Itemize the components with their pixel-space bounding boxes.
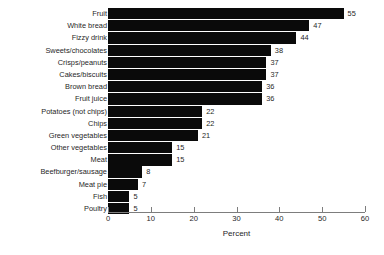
bar-value-label: 15 bbox=[176, 154, 184, 165]
bar-value-label: 21 bbox=[202, 130, 210, 141]
bar-value-label: 5 bbox=[133, 203, 137, 214]
bar-category-label: White bread bbox=[67, 20, 107, 31]
bar-track: 15 bbox=[108, 142, 384, 153]
bar-row: Other vegetables15 bbox=[0, 142, 384, 153]
bar bbox=[108, 8, 344, 19]
bar-track: 21 bbox=[108, 130, 384, 141]
bar-category-label: Sweets/chocolates bbox=[45, 45, 107, 56]
bar-row: Meat pie7 bbox=[0, 179, 384, 190]
x-axis-tick bbox=[237, 207, 238, 212]
bar-value-label: 55 bbox=[348, 8, 356, 19]
x-axis-tick bbox=[194, 207, 195, 212]
x-axis-tick-label: 10 bbox=[147, 214, 155, 223]
bar-track: 36 bbox=[108, 93, 384, 104]
bar-value-label: 8 bbox=[146, 166, 150, 177]
bar-value-label: 37 bbox=[270, 69, 278, 80]
bar-track: 37 bbox=[108, 57, 384, 68]
bar-track: 47 bbox=[108, 20, 384, 31]
bar-category-label: Fish bbox=[93, 191, 107, 202]
x-axis-tick bbox=[108, 207, 109, 212]
bar-track: 38 bbox=[108, 45, 384, 56]
bar-category-label: Fruit juice bbox=[75, 93, 107, 104]
bar-category-label: Meat bbox=[91, 154, 107, 165]
bar-track: 36 bbox=[108, 81, 384, 92]
bar-category-label: Potatoes (not chips) bbox=[41, 106, 107, 117]
bar-category-label: Poultry bbox=[84, 203, 107, 214]
bar-row: Poultry5 bbox=[0, 203, 384, 214]
bar bbox=[108, 191, 129, 202]
bar-chart: Fruit55White bread47Fizzy drink44Sweets/… bbox=[0, 0, 384, 255]
bar bbox=[108, 106, 202, 117]
bar-category-label: Crisps/peanuts bbox=[58, 57, 107, 68]
x-axis-tick-label: 0 bbox=[106, 214, 110, 223]
x-axis-tick bbox=[322, 207, 323, 212]
bar-row: Potatoes (not chips)22 bbox=[0, 106, 384, 117]
x-axis-line bbox=[108, 212, 365, 213]
bar bbox=[108, 57, 266, 68]
bar-category-label: Beefburger/sausage bbox=[40, 166, 107, 177]
bar-row: Fruit juice36 bbox=[0, 93, 384, 104]
x-axis-tick-label: 30 bbox=[232, 214, 240, 223]
bar bbox=[108, 118, 202, 129]
x-axis-tick-label: 60 bbox=[361, 214, 369, 223]
x-axis-tick bbox=[151, 207, 152, 212]
bar bbox=[108, 20, 309, 31]
bar-row: Chips22 bbox=[0, 118, 384, 129]
bar bbox=[108, 203, 129, 214]
bar-track: 55 bbox=[108, 8, 384, 19]
bar-category-label: Meat pie bbox=[79, 179, 107, 190]
bar-track: 5 bbox=[108, 203, 384, 214]
bar-value-label: 36 bbox=[266, 81, 274, 92]
bar-track: 8 bbox=[108, 166, 384, 177]
bar-row: Sweets/chocolates38 bbox=[0, 45, 384, 56]
bar-track: 44 bbox=[108, 32, 384, 43]
bar-row: Beefburger/sausage8 bbox=[0, 166, 384, 177]
bar-row: White bread47 bbox=[0, 20, 384, 31]
bar-rows-container: Fruit55White bread47Fizzy drink44Sweets/… bbox=[0, 8, 384, 215]
bar bbox=[108, 179, 138, 190]
bar-category-label: Green vegetables bbox=[49, 130, 107, 141]
bar-category-label: Fruit bbox=[92, 8, 107, 19]
bar-track: 22 bbox=[108, 118, 384, 129]
bar-value-label: 7 bbox=[142, 179, 146, 190]
bar-track: 7 bbox=[108, 179, 384, 190]
x-axis-tick-label: 50 bbox=[318, 214, 326, 223]
bar bbox=[108, 130, 198, 141]
bar-row: Green vegetables21 bbox=[0, 130, 384, 141]
bar bbox=[108, 69, 266, 80]
bar bbox=[108, 142, 172, 153]
bar-value-label: 44 bbox=[300, 32, 308, 43]
bar-track: 15 bbox=[108, 154, 384, 165]
bar-row: Meat15 bbox=[0, 154, 384, 165]
bar-track: 22 bbox=[108, 106, 384, 117]
bar-category-label: Fizzy drink bbox=[72, 32, 107, 43]
bar-track: 5 bbox=[108, 191, 384, 202]
bar bbox=[108, 45, 271, 56]
bar-value-label: 22 bbox=[206, 118, 214, 129]
bar-category-label: Cakes/biscuits bbox=[59, 69, 107, 80]
bar bbox=[108, 166, 142, 177]
bar-row: Brown bread36 bbox=[0, 81, 384, 92]
bar-row: Fruit55 bbox=[0, 8, 384, 19]
bar-row: Cakes/biscuits37 bbox=[0, 69, 384, 80]
bar-value-label: 22 bbox=[206, 106, 214, 117]
bar-category-label: Other vegetables bbox=[51, 142, 107, 153]
bar-value-label: 37 bbox=[270, 57, 278, 68]
x-axis-tick-label: 40 bbox=[275, 214, 283, 223]
bar-row: Crisps/peanuts37 bbox=[0, 57, 384, 68]
bar-value-label: 5 bbox=[133, 191, 137, 202]
bar-row: Fish5 bbox=[0, 191, 384, 202]
x-axis-tick-label: 20 bbox=[189, 214, 197, 223]
bar-category-label: Brown bread bbox=[65, 81, 107, 92]
bar-value-label: 36 bbox=[266, 93, 274, 104]
bar-value-label: 15 bbox=[176, 142, 184, 153]
bar bbox=[108, 154, 172, 165]
bar-value-label: 47 bbox=[313, 20, 321, 31]
bar bbox=[108, 81, 262, 92]
bar bbox=[108, 93, 262, 104]
bar-row: Fizzy drink44 bbox=[0, 32, 384, 43]
bar-category-label: Chips bbox=[88, 118, 107, 129]
x-axis-title: Percent bbox=[108, 229, 365, 238]
bar-track: 37 bbox=[108, 69, 384, 80]
bar bbox=[108, 32, 296, 43]
